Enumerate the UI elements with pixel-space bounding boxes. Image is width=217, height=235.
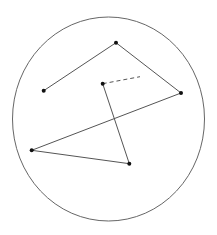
vertex-point-p2	[114, 41, 118, 45]
vertex-point-p5	[127, 162, 131, 166]
dashed-segment	[103, 77, 140, 84]
vertex-point-p4	[30, 148, 34, 152]
vertex-points	[30, 41, 183, 166]
diagram-canvas	[0, 0, 217, 235]
diagram-svg	[0, 0, 217, 235]
vertex-point-p1	[42, 89, 46, 93]
vertex-point-p3	[179, 91, 183, 95]
vertex-point-p6	[101, 82, 105, 86]
solid-path	[32, 43, 181, 164]
